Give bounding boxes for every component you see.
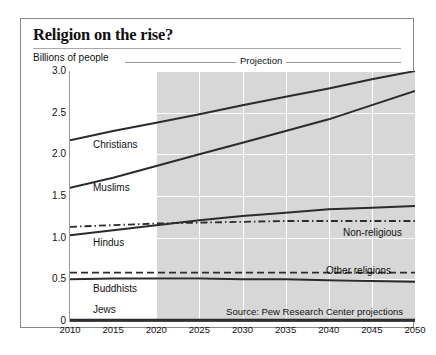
y-tick-label: 2.5 [26,107,66,118]
projection-rule-right [286,62,401,63]
plot-area: ChristiansMuslimsHindusNon-religiousOthe… [70,71,415,321]
y-tick-label: 3.0 [26,65,66,76]
x-tick-label: 2010 [59,324,80,335]
series-label-hindus: Hindus [93,237,124,248]
y-tick-label: 1.5 [26,190,66,201]
y-axis-ticks: 00.51.01.52.02.53.0 [21,71,66,321]
series-label-other-religions: Other religions [326,265,391,276]
series-label-non-religious: Non-religious [343,227,402,238]
x-tick-label: 2050 [404,324,425,335]
x-tick-label: 2035 [275,324,296,335]
x-tick-label: 2030 [232,324,253,335]
y-tick-label: 2.0 [26,148,66,159]
projection-rule-left [125,62,236,63]
chart-card: Religion on the rise? Billions of people… [20,18,414,328]
title-divider [33,48,401,49]
series-label-jews: Jews [93,304,116,315]
series-label-muslims: Muslims [93,182,130,193]
projection-label: Projection [240,55,282,66]
y-tick-label: 0.5 [26,273,66,284]
series-label-christians: Christians [93,139,137,150]
page-title: Religion on the rise? [33,25,173,45]
series-line-buddhists [70,279,415,282]
series-label-buddhists: Buddhists [93,283,137,294]
x-tick-label: 2020 [146,324,167,335]
x-tick-label: 2025 [189,324,210,335]
x-axis-ticks: 201020152020202520302035204020452050 [70,324,419,338]
projection-annotation: Projection [33,57,401,69]
x-tick-label: 2015 [103,324,124,335]
series-line-christians [70,71,415,140]
y-tick-label: 1.0 [26,232,66,243]
x-tick-label: 2040 [318,324,339,335]
series-line-non-religious [70,221,415,227]
x-tick-label: 2045 [361,324,382,335]
source-note: Source: Pew Research Center projections [226,306,403,317]
